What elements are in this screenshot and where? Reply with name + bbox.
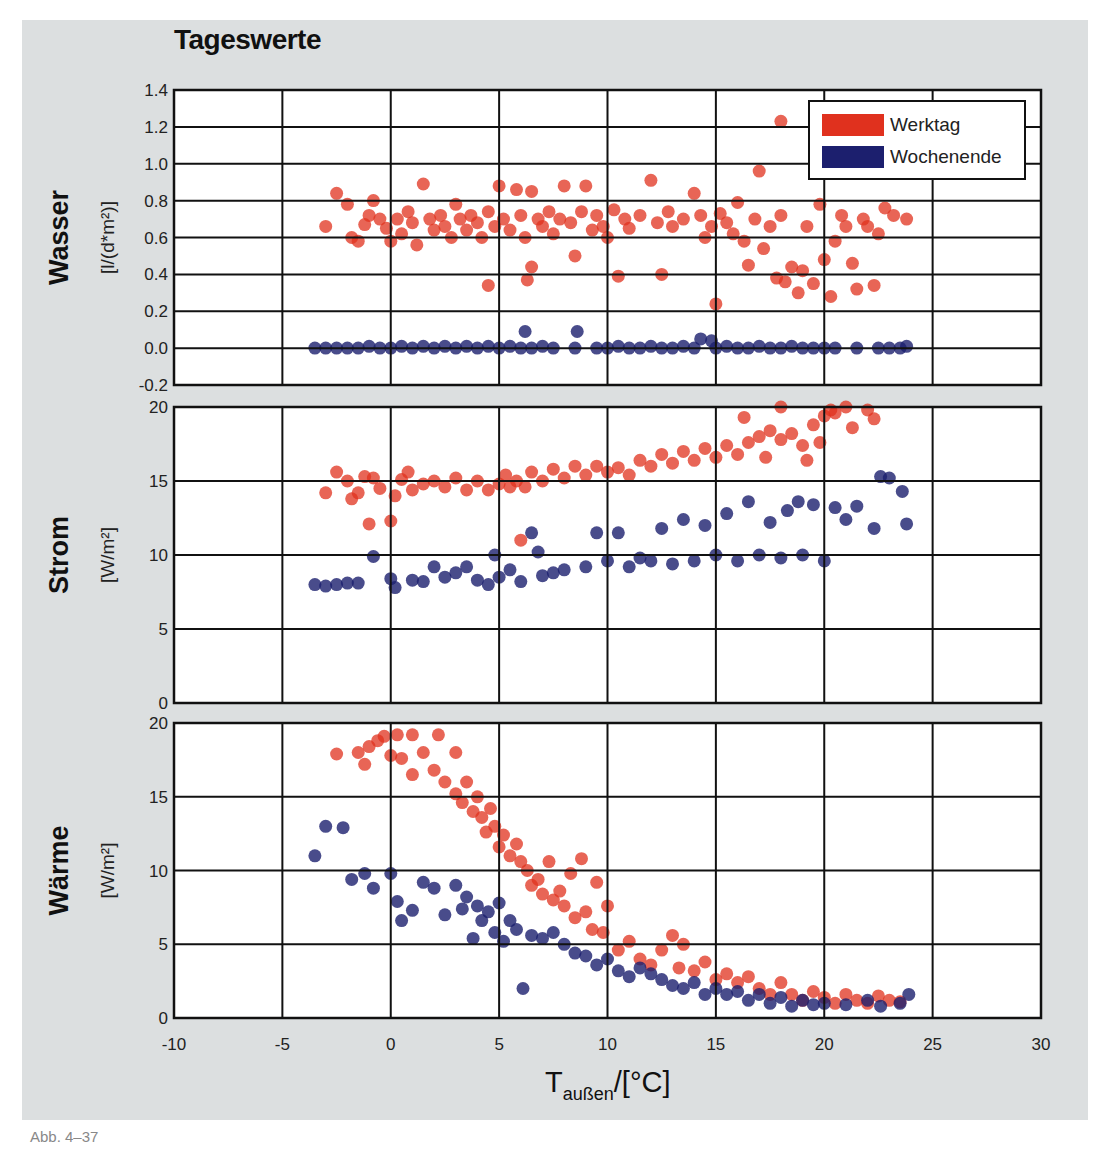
data-point bbox=[432, 728, 445, 741]
data-point bbox=[612, 944, 625, 957]
data-point bbox=[634, 552, 647, 565]
data-point bbox=[558, 899, 571, 912]
data-point bbox=[902, 988, 915, 1001]
data-point bbox=[623, 469, 636, 482]
data-point bbox=[438, 340, 451, 353]
data-point bbox=[406, 728, 419, 741]
data-point bbox=[579, 905, 592, 918]
data-point bbox=[525, 261, 538, 274]
legend-swatch-wochenende bbox=[822, 146, 884, 168]
data-point bbox=[655, 448, 668, 461]
x-tick-label: 30 bbox=[1032, 1035, 1051, 1054]
y-axis-unit: [l/(d*m²)] bbox=[97, 201, 118, 274]
data-point bbox=[330, 748, 343, 761]
x-tick-label: -10 bbox=[162, 1035, 187, 1054]
data-point bbox=[449, 472, 462, 485]
data-point bbox=[612, 270, 625, 283]
data-point bbox=[547, 566, 560, 579]
data-point bbox=[839, 220, 852, 233]
data-point bbox=[373, 482, 386, 495]
data-point bbox=[699, 442, 712, 455]
data-point bbox=[504, 224, 517, 237]
data-point bbox=[839, 998, 852, 1011]
data-point bbox=[482, 205, 495, 218]
data-point bbox=[742, 970, 755, 983]
data-point bbox=[417, 178, 430, 191]
data-point bbox=[738, 411, 751, 424]
data-point bbox=[337, 821, 350, 834]
data-point bbox=[839, 513, 852, 526]
data-point bbox=[363, 517, 376, 530]
data-point bbox=[406, 216, 419, 229]
data-point bbox=[586, 923, 599, 936]
y-tick-label: 1.2 bbox=[144, 118, 168, 137]
x-tick-label: 0 bbox=[386, 1035, 395, 1054]
data-point bbox=[666, 557, 679, 570]
data-point bbox=[753, 340, 766, 353]
data-point bbox=[720, 439, 733, 452]
data-point bbox=[525, 929, 538, 942]
data-point bbox=[367, 882, 380, 895]
data-point bbox=[564, 867, 577, 880]
data-point bbox=[753, 988, 766, 1001]
data-point bbox=[868, 279, 881, 292]
y-tick-label: 0.0 bbox=[144, 339, 168, 358]
data-point bbox=[807, 277, 820, 290]
y-axis-title: Wasser bbox=[44, 189, 74, 285]
data-point bbox=[759, 451, 772, 464]
data-point bbox=[694, 332, 707, 345]
data-point bbox=[612, 461, 625, 474]
data-point bbox=[525, 185, 538, 198]
data-point bbox=[402, 466, 415, 479]
data-point bbox=[330, 466, 343, 479]
data-point bbox=[731, 985, 744, 998]
data-point bbox=[764, 424, 777, 437]
data-point bbox=[800, 220, 813, 233]
y-axis-title: Strom bbox=[44, 516, 74, 594]
data-point bbox=[655, 944, 668, 957]
data-point bbox=[874, 1000, 887, 1013]
data-point bbox=[363, 340, 376, 353]
data-point bbox=[764, 220, 777, 233]
data-point bbox=[742, 259, 755, 272]
data-point bbox=[720, 216, 733, 229]
data-point bbox=[887, 209, 900, 222]
data-point bbox=[579, 950, 592, 963]
data-point bbox=[774, 115, 787, 128]
data-point bbox=[608, 203, 621, 216]
data-point bbox=[677, 340, 690, 353]
data-point bbox=[514, 209, 527, 222]
data-point bbox=[378, 730, 391, 743]
data-point bbox=[850, 283, 863, 296]
data-point bbox=[438, 220, 451, 233]
data-point bbox=[428, 882, 441, 895]
data-point bbox=[428, 560, 441, 573]
x-axis-label-main: T bbox=[545, 1066, 563, 1098]
data-point bbox=[358, 758, 371, 771]
data-point bbox=[482, 905, 495, 918]
y-tick-label: 20 bbox=[149, 398, 168, 417]
y-tick-label: 20 bbox=[149, 714, 168, 733]
data-point bbox=[699, 956, 712, 969]
panel-2: 05101520Wärme[W/m²]-10-5051015202530 bbox=[44, 714, 1050, 1054]
data-point bbox=[861, 220, 874, 233]
y-tick-label: 10 bbox=[149, 546, 168, 565]
data-point bbox=[352, 577, 365, 590]
data-point bbox=[774, 991, 787, 1004]
data-point bbox=[731, 448, 744, 461]
data-point bbox=[731, 196, 744, 209]
data-point bbox=[391, 895, 404, 908]
data-point bbox=[438, 776, 451, 789]
x-tick-label: 20 bbox=[815, 1035, 834, 1054]
y-tick-label: -0.2 bbox=[139, 376, 168, 395]
data-point bbox=[510, 923, 523, 936]
data-point bbox=[757, 242, 770, 255]
data-point bbox=[807, 418, 820, 431]
data-point bbox=[688, 554, 701, 567]
data-point bbox=[694, 209, 707, 222]
data-point bbox=[558, 179, 571, 192]
y-tick-label: 15 bbox=[149, 472, 168, 491]
data-point bbox=[688, 187, 701, 200]
data-point bbox=[800, 454, 813, 467]
y-tick-label: 0.8 bbox=[144, 192, 168, 211]
